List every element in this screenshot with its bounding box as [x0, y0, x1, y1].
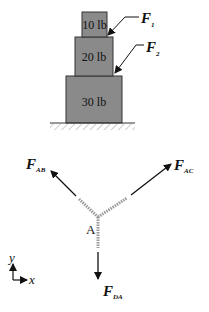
x-axis-label: x [28, 272, 35, 287]
f1-arrow-icon [108, 17, 139, 35]
fac-label: FAC [173, 157, 194, 175]
force-fda: FDA [98, 252, 123, 301]
force-fab: FAB [25, 156, 76, 196]
fab-label: FAB [25, 156, 46, 174]
fda-label: FDA [102, 283, 123, 301]
ground [50, 123, 135, 130]
box-30lb-label: 30 lb [82, 95, 106, 109]
force-f2: F2 [115, 39, 160, 73]
fac-arrow-icon [131, 164, 171, 195]
f2-arrow-icon [115, 45, 144, 73]
box-20lb-label: 20 lb [82, 50, 106, 64]
diagram-canvas: 10 lb 20 lb 30 lb F1 F2 FAB FAC FDA A [0, 0, 209, 312]
box-10lb-label: 10 lb [82, 18, 106, 32]
f1-label: F1 [140, 10, 155, 29]
point-a-label: A [86, 222, 96, 237]
f2-label: F2 [145, 39, 160, 58]
force-f1: F1 [108, 10, 155, 35]
force-fac: FAC [131, 157, 194, 195]
y-axis-label: y [7, 250, 15, 265]
fab-arrow-icon [51, 171, 76, 196]
coordinate-axes: y x [7, 250, 35, 287]
